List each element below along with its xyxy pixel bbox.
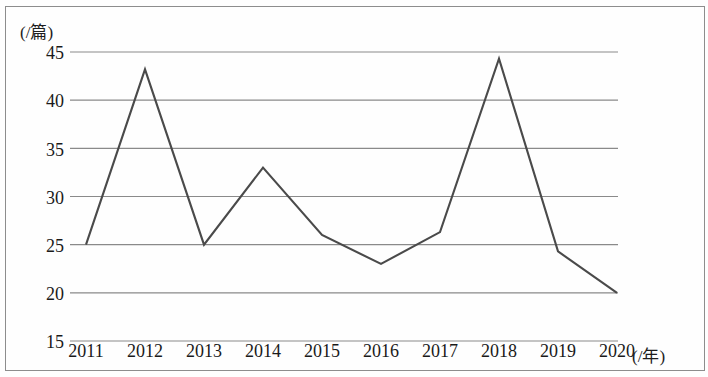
data-series-line (86, 59, 617, 293)
plot-area (0, 0, 708, 377)
chart-figure: (/篇) (/年) 45 40 35 30 25 20 15 2011 2012… (0, 0, 708, 377)
gridlines (70, 52, 618, 341)
